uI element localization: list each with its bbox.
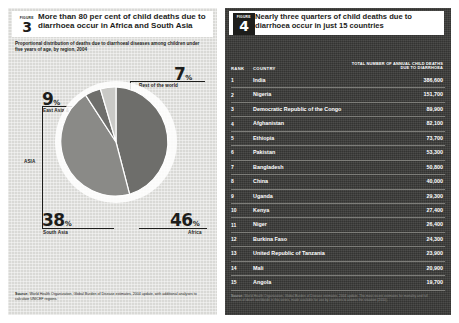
callout-rule-south-asia (42, 228, 114, 229)
table-body: 1India386,6002Nigeria151,7003Democratic … (231, 74, 445, 291)
table-row: 9Uganda29,300 (231, 190, 445, 204)
figure-3-subtitle: Proportional distribution of deaths due … (15, 41, 205, 53)
figure-label: FIGURE (237, 14, 251, 20)
cell-deaths: 27,400 (427, 207, 444, 213)
pie-slices (60, 86, 172, 198)
callout-rule-rest-of-world (130, 81, 205, 82)
cell-country: United Republic of Tanzania (253, 250, 325, 256)
cell-deaths: 23,900 (427, 250, 444, 256)
cell-rank: 12 (231, 236, 237, 242)
cell-country: Afghanistan (253, 120, 284, 126)
cell-country: Niger (253, 221, 267, 227)
table-row: 10Kenya27,400 (231, 204, 445, 218)
cell-rank: 2 (231, 92, 234, 98)
cell-deaths: 40,000 (427, 178, 444, 184)
cell-deaths: 73,700 (427, 135, 444, 141)
cell-rank: 4 (231, 121, 234, 127)
table-row: 7Bangladesh50,800 (231, 161, 445, 175)
table-row: 2Nigeria151,700 (231, 88, 445, 102)
cell-country: Angola (253, 279, 271, 285)
table-row: 13United Republic of Tanzania23,900 (231, 247, 445, 261)
cell-country: Nigeria (253, 91, 271, 97)
cell-rank: 15 (231, 279, 237, 285)
figure-3-source-label: Source: (15, 292, 28, 296)
cell-country: Bangladesh (253, 164, 284, 170)
figure-3-badge: FIGURE 3 (16, 14, 38, 36)
table-row: 15Angola19,700 (231, 276, 445, 290)
figure-number: 3 (22, 21, 32, 34)
cell-country: Ethiopia (253, 135, 274, 141)
cell-rank: 8 (231, 178, 234, 184)
figure-4-badge: FIGURE 4 (233, 13, 255, 35)
table-row: 11Niger26,400 (231, 218, 445, 232)
figure-4-source: Source: World Health Organization, Globa… (231, 294, 431, 303)
cell-deaths: 89,900 (427, 106, 444, 112)
figure-4-panel: FIGURE 4 Nearly three quarters of child … (225, 8, 451, 315)
slice-label-africa: Africa (188, 230, 202, 235)
cell-rank: 3 (231, 106, 234, 112)
cell-deaths: 151,700 (424, 91, 444, 97)
asia-bracket-label: ASIA (24, 159, 35, 164)
figure-3-source-text: World Health Organization, Global Burden… (15, 292, 197, 301)
cell-country: Burkina Faso (253, 236, 287, 242)
cell-rank: 14 (231, 265, 237, 271)
figure-4-source-text: World Health Organization, Global Burden… (231, 294, 428, 302)
cell-rank: 7 (231, 164, 234, 170)
figure-3-panel: FIGURE 3 More than 80 per cent of child … (8, 8, 217, 315)
table-row: 4Afghanistan82,100 (231, 117, 445, 131)
column-header-rank: RANK (231, 66, 244, 71)
cell-rank: 1 (231, 77, 234, 83)
cell-deaths: 50,800 (427, 164, 444, 170)
cell-deaths: 26,400 (427, 221, 444, 227)
cell-country: Democratic Republic of the Congo (253, 106, 341, 112)
cell-rank: 9 (231, 193, 234, 199)
cell-rank: 13 (231, 250, 237, 256)
figure-3-source: Source: World Health Organization, Globa… (15, 292, 207, 302)
table-header: RANK COUNTRY TOTAL NUMBER OF ANNUAL CHIL… (231, 54, 445, 72)
cell-country: China (253, 178, 268, 184)
cell-rank: 5 (231, 135, 234, 141)
table-row: 14Mali20,900 (231, 262, 445, 276)
column-header-deaths: TOTAL NUMBER OF ANNUAL CHILD DEATHS DUE … (351, 62, 443, 71)
cell-country: Uganda (253, 193, 273, 199)
cell-country: Kenya (253, 207, 269, 213)
cell-deaths: 24,300 (427, 236, 444, 242)
infographic-page: FIGURE 3 More than 80 per cent of child … (0, 0, 459, 323)
cell-rank: 11 (231, 222, 236, 228)
table-row: 1India386,600 (231, 74, 445, 88)
cell-deaths: 82,100 (427, 120, 444, 126)
cell-deaths: 53,300 (427, 149, 444, 155)
figure-number: 4 (239, 20, 249, 33)
figure-label: FIGURE (20, 15, 34, 21)
cell-country: Mali (253, 265, 263, 271)
cell-rank: 6 (231, 149, 234, 155)
cell-rank: 10 (231, 207, 237, 213)
figure-4-title: Nearly three quarters of child deaths du… (255, 12, 441, 30)
cell-deaths: 29,300 (427, 193, 444, 199)
figure-3-title: More than 80 per cent of child deaths du… (38, 12, 210, 31)
table-row: 6Pakistan53,300 (231, 146, 445, 160)
slice-label-south-asia: South Asia (43, 230, 68, 235)
table-row: 3Democratic Republic of the Congo89,900 (231, 103, 445, 117)
cell-country: India (253, 77, 266, 83)
cell-deaths: 386,600 (424, 77, 444, 83)
column-header-country: COUNTRY (253, 66, 276, 71)
table-row: 8China40,000 (231, 175, 445, 189)
table-row: 12Burkina Faso24,300 (231, 233, 445, 247)
cell-deaths: 20,900 (427, 265, 444, 271)
table-row: 5Ethiopia73,700 (231, 132, 445, 146)
callout-rule-africa (139, 228, 207, 229)
cell-deaths: 19,700 (427, 279, 444, 285)
cell-country: Pakistan (253, 149, 275, 155)
pie-chart (60, 86, 172, 198)
